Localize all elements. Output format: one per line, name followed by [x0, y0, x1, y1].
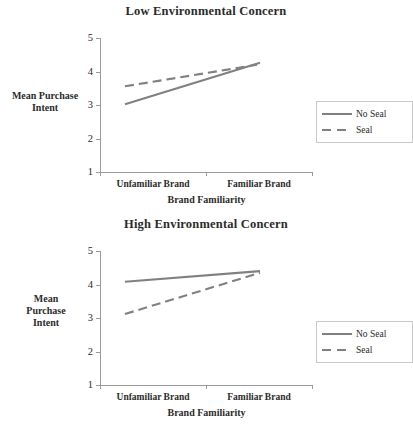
legend-solid-line-icon	[322, 109, 352, 119]
legend-label-seal: Seal	[356, 125, 372, 135]
chart-title-high: High Environmental Concern	[0, 217, 412, 232]
y-tick-label-2: 2	[88, 346, 93, 357]
y-axis-title-high: Mean Purchase Intent	[6, 293, 86, 329]
y-tick-label-3: 3	[88, 100, 93, 111]
y-axis-title-line-2: Intent	[2, 102, 88, 114]
series-line-no-seal	[125, 271, 260, 282]
x-tick-familiar	[312, 385, 313, 389]
plot-area-low: 5 4 3 2 1 Unfamiliar Brand Familiar Bran…	[100, 38, 313, 172]
legend-item-seal[interactable]: Seal	[322, 342, 406, 358]
x-category-familiar: Familiar Brand	[227, 179, 290, 189]
legend-high: No Seal Seal	[316, 321, 413, 363]
legend-dashed-line-icon	[322, 345, 352, 355]
y-tick-label-3: 3	[88, 313, 93, 324]
series-line-seal	[125, 273, 260, 314]
x-category-familiar: Familiar Brand	[227, 392, 290, 402]
y-tick-label-5: 5	[88, 246, 93, 257]
x-tick-unfamiliar	[100, 385, 101, 389]
x-tick-mid	[206, 385, 207, 389]
legend-dashed-line-icon	[322, 125, 352, 135]
y-tick-label-5: 5	[88, 33, 93, 44]
y-axis-title-line-1: Mean Purchase	[2, 90, 88, 102]
legend-item-no-seal[interactable]: No Seal	[322, 326, 406, 342]
legend-label-no-seal: No Seal	[356, 109, 386, 119]
x-tick-mid	[206, 172, 207, 176]
legend-solid-line-icon	[322, 329, 352, 339]
series-lines-low	[100, 38, 313, 172]
y-tick-label-4: 4	[88, 66, 93, 77]
legend-label-seal: Seal	[356, 345, 372, 355]
x-tick-familiar	[312, 172, 313, 176]
chart-title-low: Low Environmental Concern	[0, 4, 412, 19]
x-category-unfamiliar: Unfamiliar Brand	[117, 392, 190, 402]
legend-item-no-seal[interactable]: No Seal	[322, 106, 406, 122]
y-tick-label-2: 2	[88, 133, 93, 144]
x-axis-title-low: Brand Familiarity	[100, 194, 313, 205]
y-axis-title-line-1: Mean	[6, 293, 86, 305]
x-tick-unfamiliar	[100, 172, 101, 176]
legend-item-seal[interactable]: Seal	[322, 122, 406, 138]
y-tick-label-1: 1	[88, 380, 93, 391]
x-axis-title-high: Brand Familiarity	[100, 407, 313, 418]
legend-label-no-seal: No Seal	[356, 329, 386, 339]
y-axis-title-line-3: Intent	[6, 317, 86, 329]
legend-low: No Seal Seal	[316, 101, 413, 143]
y-axis-title-line-2: Purchase	[6, 305, 86, 317]
x-category-unfamiliar: Unfamiliar Brand	[117, 179, 190, 189]
y-tick-label-4: 4	[88, 279, 93, 290]
panel-low-environmental-concern: Low Environmental Concern Mean Purchase …	[0, 0, 412, 212]
series-lines-high	[100, 251, 313, 385]
y-axis-title-low: Mean Purchase Intent	[2, 90, 88, 114]
y-tick-label-1: 1	[88, 167, 93, 178]
plot-area-high: 5 4 3 2 1 Unfamiliar Brand Familiar Bran…	[100, 251, 313, 385]
panel-high-environmental-concern: High Environmental Concern Mean Purchase…	[0, 213, 412, 425]
